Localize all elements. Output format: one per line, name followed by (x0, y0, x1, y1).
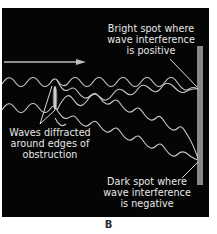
wave-lower-tail (55, 118, 66, 126)
diffraction-label: Waves diffracted around edges of obstruc… (2, 127, 98, 161)
bright-spot-label-line2: wave interference (96, 34, 206, 45)
arrow-right-icon (4, 59, 86, 65)
detector-screen (197, 46, 203, 185)
pointer-bright (170, 59, 197, 87)
diffraction-label-line1: Waves diffracted (2, 127, 98, 138)
diffraction-label-line3: obstruction (2, 149, 98, 160)
dark-spot-label: Dark spot where wave interference is neg… (90, 176, 204, 210)
wave-diffracted-lower-up (57, 83, 198, 110)
figure-panel-letter: B (0, 219, 217, 230)
bright-spot-label-line1: Bright spot where (96, 23, 206, 34)
bright-spot-label: Bright spot where wave interference is p… (96, 23, 206, 57)
bright-spot-label-line3: is positive (96, 45, 206, 56)
incident-wave-lower (2, 104, 57, 113)
diffraction-label-line2: around edges of (2, 138, 98, 149)
dark-spot-label-line3: is negative (90, 198, 204, 209)
dark-spot-label-line1: Dark spot where (90, 176, 204, 187)
dark-spot-label-line2: wave interference (90, 187, 204, 198)
incident-wave-upper (2, 78, 57, 87)
wave-to-bright-1 (57, 78, 198, 91)
